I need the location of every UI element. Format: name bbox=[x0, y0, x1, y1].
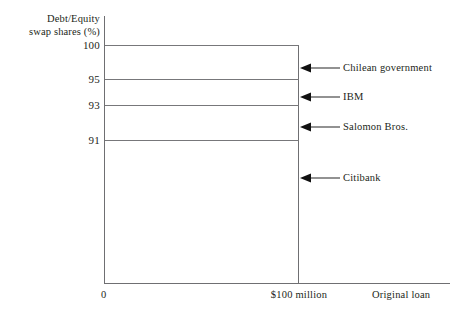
callout-salomon-bros: Salomon Bros. bbox=[300, 120, 408, 134]
x-axis-title: Original loan bbox=[372, 289, 430, 301]
left-arrow-icon bbox=[300, 172, 340, 184]
callout-label: Citibank bbox=[343, 172, 381, 184]
callout-label: Salomon Bros. bbox=[343, 121, 408, 133]
callout-label: IBM bbox=[343, 91, 363, 103]
chart-figure: Debt/Equity swap shares (%) 100 95 93 91… bbox=[0, 0, 459, 317]
callout-chilean-government: Chilean government bbox=[300, 61, 432, 75]
level-line-95 bbox=[105, 79, 299, 80]
left-arrow-icon bbox=[300, 62, 340, 74]
bar-right-edge-line bbox=[298, 45, 299, 284]
y-tick-label-100: 100 bbox=[4, 40, 100, 51]
y-axis-line bbox=[104, 16, 105, 284]
level-line-100 bbox=[105, 45, 299, 46]
y-tick-label-93: 93 bbox=[4, 100, 100, 111]
level-line-93 bbox=[105, 105, 299, 106]
callout-ibm: IBM bbox=[300, 90, 363, 104]
y-tick-label-91: 91 bbox=[4, 135, 100, 146]
left-arrow-icon bbox=[300, 91, 340, 103]
y-tick-label-95: 95 bbox=[4, 74, 100, 85]
x-origin-label: 0 bbox=[101, 289, 106, 301]
left-arrow-icon bbox=[300, 121, 340, 133]
y-tick-labels: 100 95 93 91 bbox=[0, 0, 100, 300]
level-line-91 bbox=[105, 140, 299, 141]
callout-label: Chilean government bbox=[343, 62, 432, 74]
x-axis-line bbox=[104, 283, 450, 284]
callout-citibank: Citibank bbox=[300, 171, 381, 185]
x-mid-label: $100 million bbox=[245, 289, 353, 301]
